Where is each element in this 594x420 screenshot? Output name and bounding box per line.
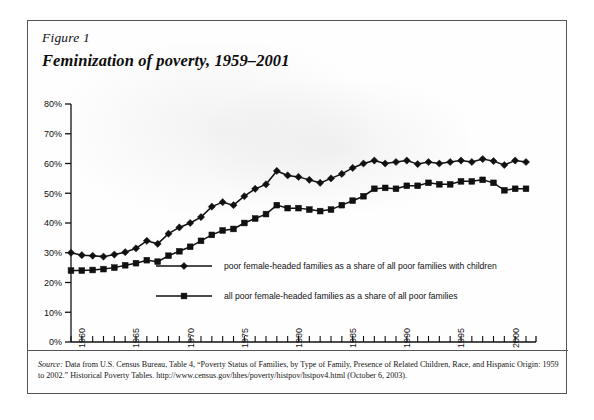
data-point-square xyxy=(426,180,432,186)
data-point-diamond xyxy=(403,157,410,164)
data-point-diamond xyxy=(360,160,367,167)
y-tick-label: 80% xyxy=(44,99,62,109)
data-point-diamond xyxy=(111,251,118,258)
data-point-square xyxy=(404,183,410,189)
y-tick-label: 10% xyxy=(44,308,62,318)
data-point-diamond xyxy=(479,155,486,162)
data-point-square xyxy=(220,228,226,234)
data-point-diamond xyxy=(522,158,529,165)
data-point-diamond xyxy=(327,175,334,182)
data-point-diamond xyxy=(371,157,378,164)
data-point-diamond xyxy=(512,157,519,164)
data-point-diamond xyxy=(447,158,454,165)
data-point-diamond xyxy=(100,253,107,260)
x-axis: 196019651970197519801985199019952000 xyxy=(71,328,536,348)
data-point-diamond xyxy=(176,224,183,231)
x-tick-label: 1970 xyxy=(186,328,196,348)
x-tick-label: 1980 xyxy=(294,328,304,348)
y-tick-label: 0% xyxy=(49,337,62,347)
data-point-square xyxy=(296,205,302,211)
data-point-square xyxy=(252,216,258,222)
y-tick-label: 60% xyxy=(44,159,62,169)
x-tick-label: 1985 xyxy=(348,328,358,348)
data-series-group xyxy=(67,155,529,273)
chart-svg: 0%10%20%30%40%50%60%70%80% 1960196519701… xyxy=(28,21,568,395)
data-point-diamond xyxy=(284,172,291,179)
data-point-square xyxy=(79,268,85,274)
data-point-square xyxy=(68,268,74,274)
data-point-square xyxy=(90,267,96,273)
data-point-square xyxy=(144,257,150,263)
data-point-square xyxy=(469,178,475,184)
source-note: Source: Data from U.S. Census Bureau, Ta… xyxy=(38,359,560,382)
data-point-diamond xyxy=(306,176,313,183)
data-point-diamond xyxy=(414,160,421,167)
data-point-square xyxy=(101,266,107,272)
data-point-square xyxy=(231,226,237,232)
data-point-square xyxy=(133,260,139,266)
data-point-diamond xyxy=(468,158,475,165)
y-tick-label: 50% xyxy=(44,189,62,199)
x-tick-label: 1965 xyxy=(131,328,141,348)
data-point-diamond xyxy=(187,219,194,226)
data-point-diamond xyxy=(317,179,324,186)
data-point-square xyxy=(350,198,356,204)
data-point-diamond xyxy=(67,249,74,256)
y-tick-label: 30% xyxy=(44,248,62,258)
data-point-square xyxy=(328,207,334,213)
data-point-square xyxy=(371,186,377,192)
legend-label: all poor female-headed families as a sha… xyxy=(224,291,458,301)
x-tick-label: 1995 xyxy=(456,328,466,348)
data-point-square xyxy=(274,202,280,208)
x-tick-label: 1960 xyxy=(77,328,87,348)
data-point-square xyxy=(415,183,421,189)
y-axis: 0%10%20%30%40%50%60%70%80% xyxy=(44,99,71,347)
legend-marker-square xyxy=(181,293,187,299)
data-point-square xyxy=(447,181,453,187)
data-point-square xyxy=(491,180,497,186)
x-tick-label: 1990 xyxy=(402,328,412,348)
data-point-diamond xyxy=(490,158,497,165)
data-point-square xyxy=(285,205,291,211)
data-point-diamond xyxy=(382,160,389,167)
data-point-square xyxy=(111,265,117,271)
data-point-diamond xyxy=(392,158,399,165)
data-point-square xyxy=(339,202,345,208)
x-tick-label: 2000 xyxy=(511,328,521,348)
data-point-square xyxy=(155,259,161,265)
data-point-diamond xyxy=(219,199,226,206)
legend-item: poor female-headed families as a share o… xyxy=(156,261,497,271)
data-point-square xyxy=(187,244,193,250)
data-point-square xyxy=(209,232,215,238)
data-point-diamond xyxy=(89,252,96,259)
data-point-diamond xyxy=(349,164,356,171)
data-point-square xyxy=(122,262,128,268)
legend-marker-diamond xyxy=(180,262,187,269)
y-tick-label: 20% xyxy=(44,278,62,288)
y-tick-label: 40% xyxy=(44,218,62,228)
data-point-square xyxy=(176,248,182,254)
data-point-square xyxy=(241,220,247,226)
data-point-square xyxy=(382,185,388,191)
data-point-square xyxy=(317,208,323,214)
legend-label: poor female-headed families as a share o… xyxy=(224,261,497,271)
data-point-diamond xyxy=(122,249,129,256)
data-point-square xyxy=(263,211,269,217)
chart-legend: poor female-headed families as a share o… xyxy=(156,261,497,301)
data-point-square xyxy=(198,238,204,244)
source-text: Data from U.S. Census Bureau, Table 4, “… xyxy=(38,360,559,380)
figure-frame: Figure 1 Feminization of poverty, 1959–2… xyxy=(27,20,567,394)
data-point-diamond xyxy=(501,161,508,168)
data-point-diamond xyxy=(78,252,85,259)
data-point-square xyxy=(166,253,172,259)
data-point-square xyxy=(501,187,507,193)
data-point-square xyxy=(361,193,367,199)
data-point-diamond xyxy=(295,173,302,180)
data-point-square xyxy=(393,186,399,192)
data-point-diamond xyxy=(338,170,345,177)
data-point-diamond xyxy=(457,157,464,164)
data-point-square xyxy=(523,186,529,192)
data-point-square xyxy=(436,181,442,187)
data-point-diamond xyxy=(425,158,432,165)
legend-item: all poor female-headed families as a sha… xyxy=(156,291,458,301)
